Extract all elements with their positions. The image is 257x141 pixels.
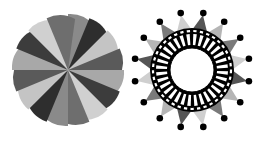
outer-dot [200, 124, 207, 131]
outer-dot [237, 99, 244, 106]
outer-dot [157, 115, 164, 122]
outer-dot [221, 19, 228, 26]
checkered-ring-graphic [125, 0, 257, 141]
outer-dot [177, 10, 184, 17]
outer-dot [141, 35, 148, 42]
pinwheel-flower-figure: Pinwheel flower [0, 0, 130, 141]
pinwheel-flower-graphic [0, 0, 130, 141]
outer-dot [221, 115, 228, 122]
outer-dot [177, 124, 184, 131]
outer-dot [237, 35, 244, 42]
inner-circle [170, 48, 214, 92]
checkered-ring-figure: Checkered ring with flags [125, 0, 257, 141]
outer-dot [246, 78, 253, 85]
outer-dot [246, 55, 253, 62]
outer-dot [141, 99, 148, 106]
outer-dot [157, 19, 164, 26]
outer-dot [132, 55, 139, 62]
outer-dot [132, 78, 139, 85]
outer-dot [200, 10, 207, 17]
